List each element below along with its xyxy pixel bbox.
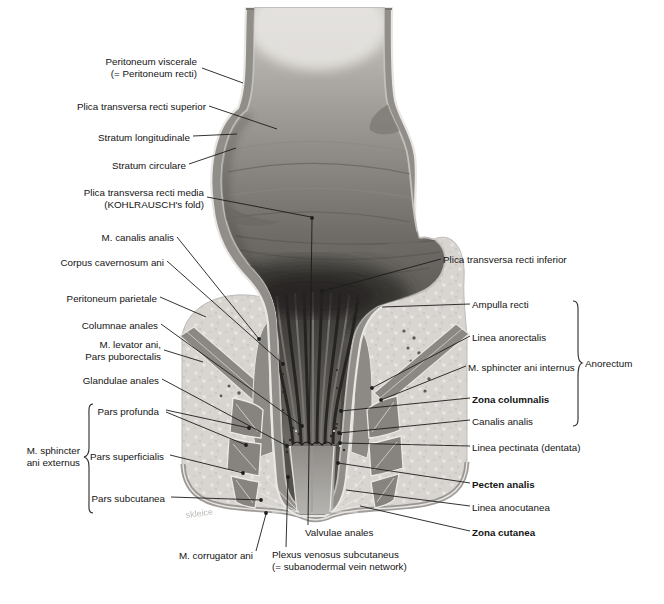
label-stratum-longitudinale: Stratum longitudinale: [98, 132, 190, 144]
label-m-sphincter-ani-internus: M. sphincter ani internus: [468, 362, 575, 374]
label-text: Pars profunda: [97, 406, 159, 418]
label-text: M. levator ani,: [85, 339, 161, 351]
label-text: Ampulla recti: [472, 299, 529, 311]
label-text: Anorectum: [585, 358, 632, 370]
label-plica-transversa-recti-inferior: Plica transversa recti inferior: [443, 254, 567, 266]
label-plexus-venosus-subcutaneus: Plexus venosus subcutaneus (= subanoderm…: [272, 549, 407, 572]
label-text: (KOHLRAUSCH's fold): [84, 199, 204, 211]
label-text: Plica transversa recti inferior: [443, 254, 567, 266]
label-canalis-analis: Canalis analis: [472, 416, 533, 428]
label-text: Corpus cavernosum ani: [61, 257, 164, 269]
label-text: Plica transversa recti superior: [77, 101, 206, 113]
label-text: Plexus venosus subcutaneus: [272, 549, 407, 561]
label-corpus-cavernosum-ani: Corpus cavernosum ani: [61, 257, 164, 269]
label-text: M. sphincter: [27, 445, 80, 457]
label-zona-columnalis: Zona columnalis: [472, 394, 549, 406]
label-text: Pecten analis: [472, 479, 535, 491]
anatomy-figure: skleice: [0, 0, 664, 604]
label-text: ani externus: [27, 457, 80, 469]
label-text: Columnae anales: [82, 320, 158, 332]
label-text: M. sphincter ani internus: [468, 362, 575, 374]
label-m-sphincter-ani-externus: M. sphincter ani externus: [27, 445, 80, 468]
label-text: Peritoneum parietale: [67, 293, 157, 305]
label-text: M. canalis analis: [102, 232, 174, 244]
label-pars-superficialis: Pars superficialis: [90, 451, 164, 463]
label-text: (= Peritoneum recti): [106, 68, 197, 80]
label-columnae-anales: Columnae anales: [82, 320, 158, 332]
label-ampulla-recti: Ampulla recti: [472, 299, 529, 311]
label-m-canalis-analis: M. canalis analis: [102, 232, 174, 244]
label-text: Pars subcutanea: [91, 493, 165, 505]
label-text: Canalis analis: [472, 416, 533, 428]
watermark: skleice: [185, 507, 214, 520]
label-text: Zona columnalis: [472, 394, 549, 406]
label-text: (= subanodermal vein network): [272, 561, 407, 573]
label-text: Stratum longitudinale: [98, 132, 190, 144]
label-text: M. corrugator ani: [179, 550, 253, 562]
label-glandulae-anales: Glandulae anales: [83, 375, 159, 387]
label-text: Pars superficialis: [90, 451, 164, 463]
label-linea-anorectalis: Linea anorectalis: [472, 332, 546, 344]
label-text: Valvulae anales: [305, 527, 373, 539]
label-stratum-circulare: Stratum circulare: [112, 160, 186, 172]
label-text: Plica transversa recti media: [84, 187, 204, 199]
label-plica-transversa-recti-media: Plica transversa recti media (KOHLRAUSCH…: [84, 187, 204, 210]
label-m-levator-ani: M. levator ani, Pars puborectalis: [85, 339, 161, 362]
label-linea-pectinata: Linea pectinata (dentata): [472, 442, 580, 454]
label-peritoneum-parietale: Peritoneum parietale: [67, 293, 157, 305]
label-text: Linea pectinata (dentata): [472, 442, 580, 454]
label-valvulae-anales: Valvulae anales: [305, 527, 373, 539]
label-text: Stratum circulare: [112, 160, 186, 172]
label-plica-transversa-recti-superior: Plica transversa recti superior: [77, 101, 206, 113]
label-pecten-analis: Pecten analis: [472, 479, 535, 491]
label-anorectum: Anorectum: [585, 358, 632, 370]
label-text: Glandulae anales: [83, 375, 159, 387]
label-text: Zona cutanea: [472, 527, 535, 539]
label-peritoneum-viscerale: Peritoneum viscerale (= Peritoneum recti…: [106, 56, 197, 79]
label-text: Pars puborectalis: [85, 351, 161, 363]
label-pars-profunda: Pars profunda: [97, 406, 159, 418]
label-m-corrugator-ani: M. corrugator ani: [179, 550, 253, 562]
label-zona-cutanea: Zona cutanea: [472, 527, 535, 539]
label-pars-subcutanea: Pars subcutanea: [91, 493, 165, 505]
label-text: Linea anorectalis: [472, 332, 546, 344]
label-text: Linea anocutanea: [472, 502, 550, 514]
label-text: Peritoneum viscerale: [106, 56, 197, 68]
label-linea-anocutanea: Linea anocutanea: [472, 502, 550, 514]
